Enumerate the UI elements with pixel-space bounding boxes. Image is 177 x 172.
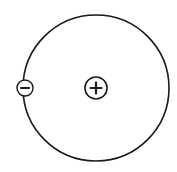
- atom-diagram: [0, 0, 177, 172]
- nucleus-proton: [85, 77, 107, 99]
- electron: [17, 80, 33, 96]
